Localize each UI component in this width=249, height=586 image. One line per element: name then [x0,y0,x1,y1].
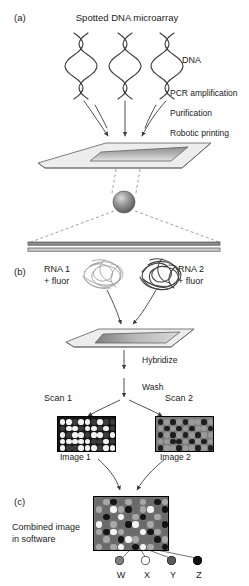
spot [78,439,84,445]
spot [110,419,116,425]
legend-key-y: Y [168,570,178,581]
spot [110,439,116,445]
spot [132,506,139,513]
spot [66,439,72,445]
spot [154,499,161,506]
spot [201,439,207,445]
spot [110,432,116,438]
spot [158,426,164,432]
legend-key-x: X [142,570,152,581]
spot [60,445,66,451]
spot [162,536,169,543]
spot [195,445,201,451]
spot [96,536,103,543]
spot [125,514,132,521]
rna-tangle-2 [140,259,181,290]
spot [125,506,132,513]
spot [78,419,84,425]
spot [118,499,125,506]
combine-arrows [98,459,165,490]
scan-arrows [88,400,162,416]
combined-caption-line1: Combined image [12,522,80,533]
spot [96,499,103,506]
spot [208,439,214,445]
spot [118,521,125,528]
spot [96,506,103,513]
spot [97,445,103,451]
spot [162,544,169,551]
spot [170,439,176,445]
spot [97,432,103,438]
hybridize-label: Hybridize [142,355,177,365]
spot [189,426,195,432]
spot [162,499,169,506]
spot [110,506,117,513]
spot [164,445,170,451]
spot [72,426,78,432]
microarray-figure: (a) Spotted DNA microarray [0,0,249,586]
spot [96,521,103,528]
spot [162,506,169,513]
spot [110,514,117,521]
spot [125,499,132,506]
spot [147,529,154,536]
spot [72,419,78,425]
spot [85,439,91,445]
spot [103,499,110,506]
spot [201,445,207,451]
spot [170,419,176,425]
spot [140,521,147,528]
spot [154,529,161,536]
spot [118,544,125,551]
spot [66,419,72,425]
spot [195,426,201,432]
spot [170,432,176,438]
spot [147,544,154,551]
spot [183,426,189,432]
spot [110,536,117,543]
spot [125,536,132,543]
spot [110,529,117,536]
spot [195,432,201,438]
spot [208,426,214,432]
spot [154,514,161,521]
combined-image [93,496,169,551]
spot [164,419,170,425]
spot [132,514,139,521]
spot [103,521,110,528]
spot [158,445,164,451]
spot [201,419,207,425]
spot [158,432,164,438]
spot [183,445,189,451]
spot [132,499,139,506]
spot [85,426,91,432]
spot [96,514,103,521]
spot [164,426,170,432]
spot [125,521,132,528]
spot [147,506,154,513]
spot [78,432,84,438]
spot [85,432,91,438]
spot [154,544,161,551]
spot [66,445,72,451]
spot [132,536,139,543]
spot [118,529,125,536]
spot [103,432,109,438]
scan2-label: Scan 2 [165,393,193,404]
spot [189,419,195,425]
legend-swatch-z [193,556,202,565]
legend-key-w: W [116,570,126,581]
spot [164,432,170,438]
spot [176,439,182,445]
spot [147,536,154,543]
wash-label: Wash [142,382,163,392]
spot [170,445,176,451]
spot [60,439,66,445]
spot [110,499,117,506]
spot [118,536,125,543]
spot [91,439,97,445]
panel-label-c: (c) [14,496,25,507]
spot [91,432,97,438]
spot [78,426,84,432]
spot [162,521,169,528]
